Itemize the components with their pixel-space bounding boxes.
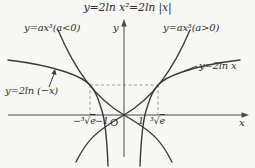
tick-cbrt-e-radicand: e [159,115,164,126]
label-cubic-negative: y=ax³(a<0) [24,22,80,34]
curve-log-negative [8,60,108,166]
curve-log-positive [140,60,240,166]
label-log-positive: y=2ln x [199,60,236,72]
tick-neg-one: −1 [95,115,109,127]
label-log-negative: y=2ln (−x) [5,85,58,97]
tick-neg-cbrt-e: −³√e [73,115,96,127]
x-axis-label: x [239,117,244,129]
curve-cubic-negative-a [58,30,172,162]
math-figure: y=2ln x²=2ln |x| y=ax³(a<0) y=ax³(a>0) y… [0,0,255,168]
tick-one: 1 [138,115,144,127]
y-axis-label: y [113,22,118,34]
label-cubic-positive: y=ax³(a>0) [163,22,219,34]
tick-cbrt-e: ³√e [150,115,165,127]
tick-neg-cbrt-e-prefix: −³√ [73,115,90,126]
origin-label: O [110,117,118,129]
log-negative-pointer-arrow-icon [52,69,57,75]
curve-cubic-positive-a [76,30,190,162]
y-axis-arrow-icon [121,19,126,27]
figure-title: y=2ln x²=2ln |x| [0,1,255,14]
